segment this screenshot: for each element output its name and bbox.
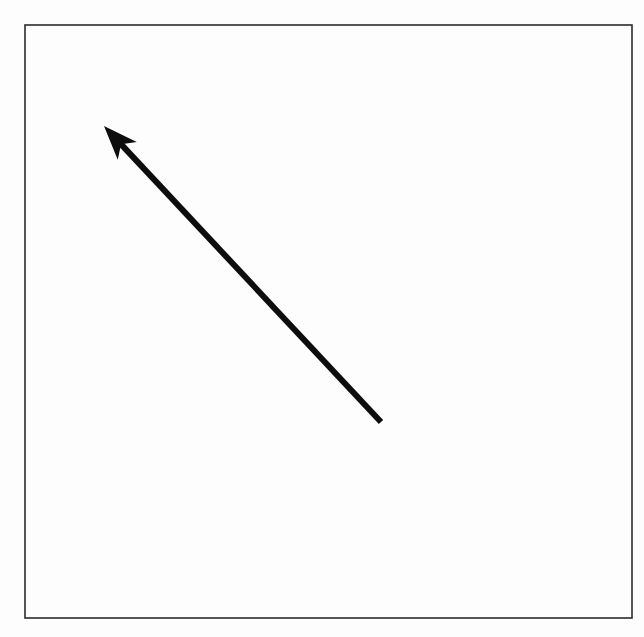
arrow-figure-svg [0,0,644,637]
canvas-background [0,0,644,637]
figure-canvas: Arrow diagram [0,0,644,637]
